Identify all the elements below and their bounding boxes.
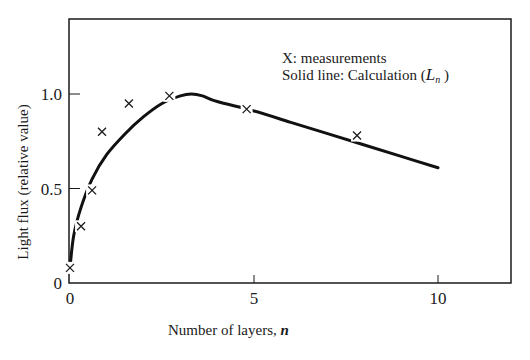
x-tick-label: 5: [250, 289, 259, 308]
y-tick-label: 0: [54, 274, 63, 293]
y-tick-label: 0.5: [41, 180, 62, 199]
chart-canvas: 051000.51.0 Light flux (relative value) …: [0, 0, 530, 360]
y-tick-label: 1.0: [41, 85, 62, 104]
calculation-line: [70, 94, 438, 268]
calculation-curve: [70, 94, 438, 268]
legend-entry-measurements: X: measurements: [282, 50, 387, 66]
y-axis-label: Light flux (relative value): [15, 104, 32, 259]
measurement-markers: [64, 90, 363, 274]
x-tick-label: 10: [430, 289, 447, 308]
x-tick-label: 0: [66, 289, 75, 308]
legend-entry-calculation: Solid line: Calculation (Ln ): [282, 65, 449, 85]
axis-ticks: 051000.51.0: [41, 85, 447, 308]
legend: X: measurements Solid line: Calculation …: [282, 50, 449, 85]
x-axis-label: Number of layers, n: [168, 322, 289, 338]
